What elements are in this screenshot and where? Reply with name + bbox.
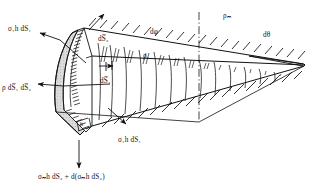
shell-element-diagram: [0, 0, 319, 192]
label-rho-1: ρ₁: [143, 53, 150, 60]
label-rho-dS1-dS2: ρ dS̅₁ dS̅₂: [2, 85, 31, 92]
label-dS2: dS̅₂: [98, 36, 109, 43]
internal-guides: [56, 56, 304, 129]
label-sigma1-h-dS1-bottom: σ₁h dS₁: [118, 137, 141, 144]
ds2-ds1-ticks: [99, 61, 113, 71]
label-bottom-equation: σₘh dS₂ + d(σₘh dS₂): [38, 174, 105, 181]
lower-surface-hatching: [102, 71, 302, 127]
label-sigma1-h-dS1-top: σ₁h dS₁: [8, 26, 31, 33]
arrow-sigma1-top-left: [40, 33, 60, 40]
upper-surface-hatching: [89, 18, 305, 59]
wedge-body: [84, 28, 305, 126]
label-d-theta: dθ: [263, 32, 270, 39]
near-panel-hatch: [101, 46, 281, 76]
d-theta-wedge: [249, 56, 303, 66]
figure-canvas: σ₁h dS₁ ρ dS̅₁ dS̅₂ dS̅₂ dS̅₁ h σ₁h dS₁ …: [0, 0, 319, 192]
label-h: h: [80, 121, 83, 127]
label-d-phi: dφ: [150, 29, 158, 36]
arrow-sigma1-top-up: [89, 14, 104, 30]
label-rho-m: ρₘ: [223, 13, 231, 20]
label-dS1: dS̅₁: [100, 78, 111, 85]
